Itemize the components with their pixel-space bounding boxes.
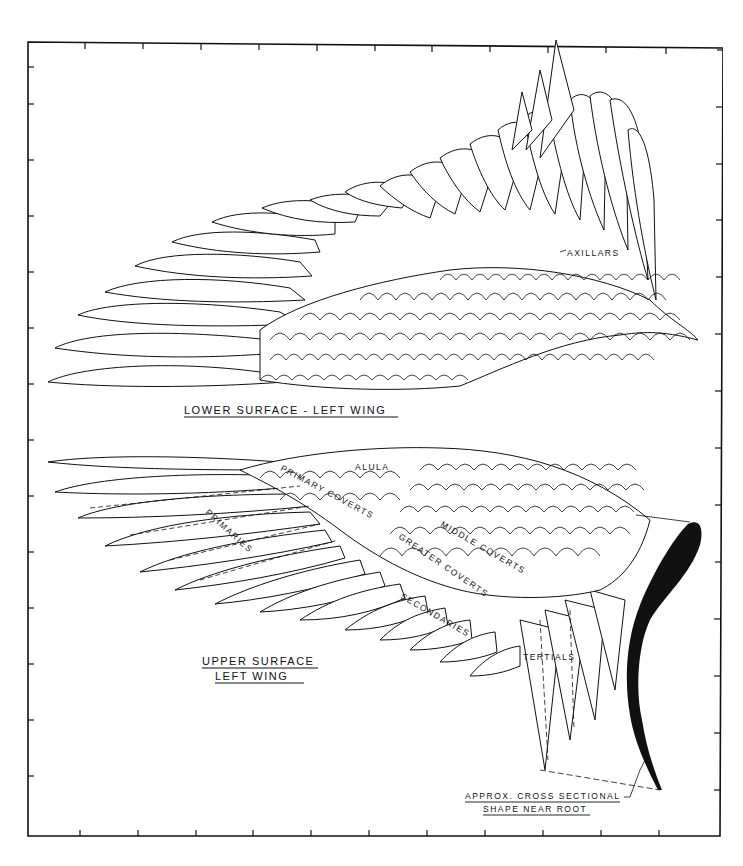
title-upper-surface-line2: LEFT WING xyxy=(215,670,288,682)
figure-caption-cropped xyxy=(24,858,184,866)
cross-section-label-line1: APPROX. CROSS SECTIONAL xyxy=(465,791,620,801)
label-alula: ALULA xyxy=(355,462,389,472)
title-lower-surface: LOWER SURFACE - LEFT WING xyxy=(184,404,386,416)
wing-diagram: AXILLARS LOWER SURFACE - LEFT WING xyxy=(27,30,723,838)
upper-wing-illustration xyxy=(48,448,650,770)
label-tertials: TERTIALS xyxy=(523,652,575,662)
label-axillars: AXILLARS xyxy=(567,248,620,258)
title-upper-surface-line1: UPPER SURFACE xyxy=(202,655,314,667)
upper-wing-title: UPPER SURFACE LEFT WING xyxy=(202,655,318,683)
cross-section-label: APPROX. CROSS SECTIONAL SHAPE NEAR ROOT xyxy=(465,791,620,815)
cross-section-label-line2: SHAPE NEAR ROOT xyxy=(483,804,587,814)
